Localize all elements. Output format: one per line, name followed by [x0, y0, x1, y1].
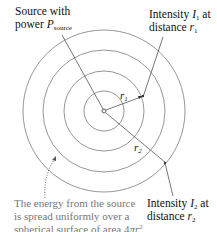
intensity1-distance-prefix: distance — [149, 21, 190, 33]
caption-line1: The energy from the source — [14, 197, 145, 210]
source-label-prefix: power — [15, 18, 47, 30]
caption-arrowhead-icon — [52, 156, 56, 161]
intensity2-line2: distance r2 — [147, 210, 209, 223]
r1-label: r1 — [120, 89, 128, 101]
intensity1-suffix: at — [199, 8, 210, 20]
caption-period: . — [143, 223, 146, 232]
caption-line3-prefix: spherical surface of area 4 — [14, 223, 129, 232]
intensity1-line1: Intensity I1 at — [149, 8, 211, 21]
caption-line3: spherical surface of area 4πr2. — [14, 223, 145, 232]
source-label-line2: power Psource — [15, 18, 72, 31]
r2-label: r2 — [134, 141, 142, 153]
r2-subscript: 2 — [138, 147, 142, 155]
caption: The energy from the source is spread uni… — [14, 197, 145, 232]
intensity1-label: Intensity I1 at distance r1 — [149, 8, 211, 34]
intensity1-line2: distance r1 — [149, 21, 211, 34]
caption-dotted-arrow — [45, 160, 54, 198]
r1-subscript: 1 — [124, 95, 128, 103]
intensity1-prefix: Intensity — [149, 8, 192, 20]
intensity1-point — [142, 95, 144, 97]
intensity2-suffix: at — [197, 197, 208, 209]
power-subscript: source — [54, 24, 72, 32]
source-label: Source with power Psource — [15, 5, 72, 31]
source-label-line1: Source with — [15, 5, 72, 18]
caption-line2: is spread uniformly over a — [14, 210, 145, 223]
intensity2-label: Intensity I2 at distance r2 — [147, 197, 209, 223]
r2-arrow — [106, 113, 166, 163]
intensity2-distance-prefix: distance — [147, 210, 188, 222]
intensity2-prefix: Intensity — [147, 197, 190, 209]
intensity2-leader-line — [165, 163, 173, 196]
intensity1-distance-subscript: 1 — [194, 27, 198, 35]
intensity2-line1: Intensity I2 at — [147, 197, 209, 210]
power-symbol: P — [47, 18, 54, 30]
intensity2-distance-subscript: 2 — [192, 216, 196, 224]
